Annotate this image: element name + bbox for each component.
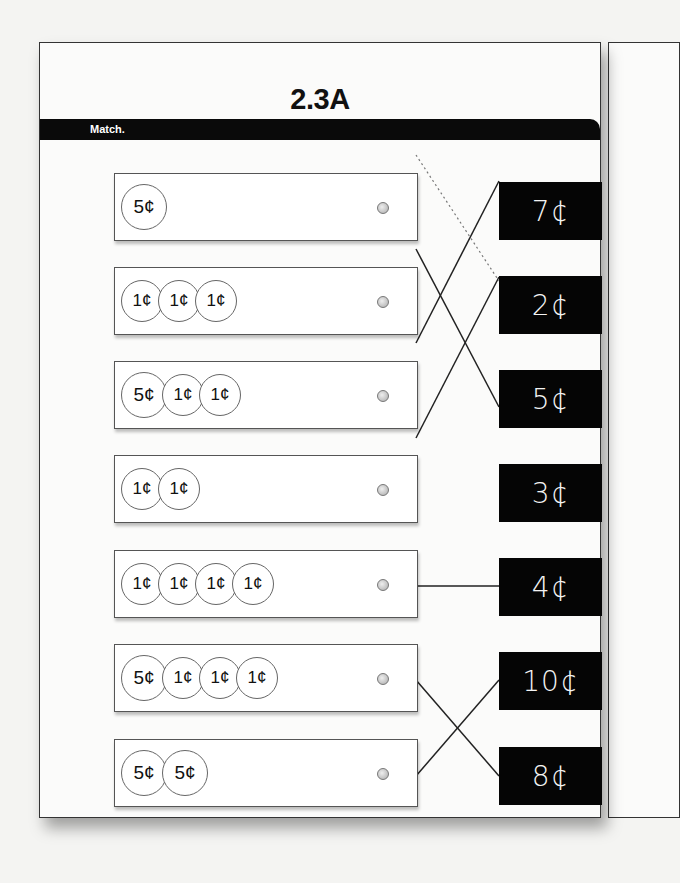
penny-coin: 1¢ xyxy=(158,468,200,510)
price-label-4[interactable]: 3¢ xyxy=(499,464,602,522)
match-dot[interactable] xyxy=(377,390,389,402)
coin-box-2: 1¢ 1¢ 1¢ xyxy=(114,267,418,335)
price-label-6[interactable]: 10¢ xyxy=(499,652,602,710)
coin-box-5: 1¢ 1¢ 1¢ 1¢ xyxy=(114,550,418,618)
match-dot[interactable] xyxy=(377,202,389,214)
price-label-3[interactable]: 5¢ xyxy=(499,370,602,428)
penny-coin: 1¢ xyxy=(121,563,163,605)
penny-coin: 1¢ xyxy=(121,468,163,510)
price-label-5[interactable]: 4¢ xyxy=(499,558,602,616)
penny-coin: 1¢ xyxy=(162,374,204,416)
penny-coin: 1¢ xyxy=(195,280,237,322)
penny-coin: 1¢ xyxy=(121,280,163,322)
penny-coin: 1¢ xyxy=(232,563,274,605)
match-dot[interactable] xyxy=(377,484,389,496)
penny-coin: 1¢ xyxy=(158,563,200,605)
penny-coin: 1¢ xyxy=(158,280,200,322)
price-label-1[interactable]: 7¢ xyxy=(499,182,602,240)
price-label-2[interactable]: 2¢ xyxy=(499,276,602,334)
nickel-coin: 5¢ xyxy=(121,372,167,418)
nickel-coin: 5¢ xyxy=(121,750,167,796)
nickel-coin: 5¢ xyxy=(121,184,167,230)
coin-box-4: 1¢ 1¢ xyxy=(114,455,418,523)
match-line-2c xyxy=(416,277,499,438)
penny-coin: 1¢ xyxy=(199,657,241,699)
coin-box-6: 5¢ 1¢ 1¢ 1¢ xyxy=(114,644,418,712)
match-dot[interactable] xyxy=(377,579,389,591)
match-line-3c xyxy=(416,249,499,407)
match-dot[interactable] xyxy=(377,296,389,308)
penny-coin: 1¢ xyxy=(199,374,241,416)
penny-coin: 1¢ xyxy=(162,657,204,699)
coin-box-1: 5¢ xyxy=(114,173,418,241)
adjacent-page-edge xyxy=(608,42,680,818)
coin-box-3: 5¢ 1¢ 1¢ xyxy=(114,361,418,429)
nickel-coin: 5¢ xyxy=(162,750,208,796)
nickel-coin: 5¢ xyxy=(121,655,167,701)
match-line-7c xyxy=(416,181,499,343)
match-dot[interactable] xyxy=(377,768,389,780)
coin-box-7: 5¢ 5¢ xyxy=(114,739,418,807)
penny-coin: 1¢ xyxy=(236,657,278,699)
penny-coin: 1¢ xyxy=(195,563,237,605)
price-label-7[interactable]: 8¢ xyxy=(499,747,602,805)
worksheet-page: 2.3A Match. 5¢ 1¢ 1¢ 1¢ 5¢ 1¢ 1¢ xyxy=(39,42,601,818)
match-dot[interactable] xyxy=(377,673,389,685)
